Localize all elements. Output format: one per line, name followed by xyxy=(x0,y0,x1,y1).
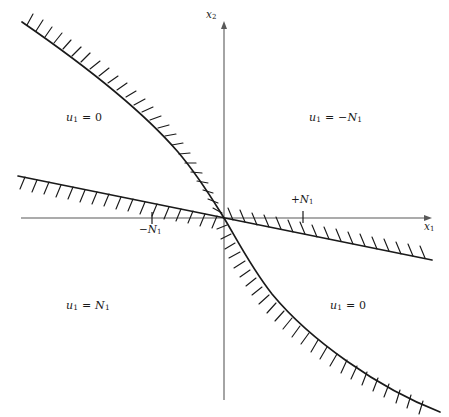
region-label-upper-right-value-sub: 1 xyxy=(357,115,362,124)
x1-axis-label: x1 xyxy=(424,220,434,233)
x1-axis-label-sub: 1 xyxy=(430,225,434,233)
tick-label-positive-N1-sub: 1 xyxy=(309,198,313,206)
region-label-upper-left-value: 0 xyxy=(95,111,102,124)
region-label-lower-left: u1 = N1 xyxy=(66,299,110,312)
region-label-lower-left-sub: 1 xyxy=(73,303,78,312)
x2-axis-arrowhead xyxy=(221,21,227,29)
x2-axis-label: x2 xyxy=(206,8,216,21)
tick-label-positive-N1-text: N xyxy=(300,193,309,205)
region-label-lower-left-value: N xyxy=(95,299,105,312)
x2-axis-label-sub: 2 xyxy=(212,13,216,21)
switching-curve-lower-right xyxy=(217,218,440,414)
tick-label-negative-N1-text: N xyxy=(148,223,157,235)
phase-plane-figure: x2 x1 −N1 +N1 u1 = 0 u1 = −N1 u1 = N1 u1… xyxy=(0,0,449,417)
region-label-upper-right-eq: = xyxy=(325,111,334,124)
region-label-lower-left-eq: = xyxy=(82,299,91,312)
region-label-upper-right-value: N xyxy=(348,111,358,124)
region-label-lower-right-sub: 1 xyxy=(337,303,342,312)
tick-label-negative-N1: −N1 xyxy=(139,223,161,236)
region-label-lower-right: u1 = 0 xyxy=(330,299,366,312)
switching-curve-upper-left-path xyxy=(22,22,224,218)
region-label-upper-right-sign: − xyxy=(338,111,347,124)
region-label-upper-left: u1 = 0 xyxy=(66,111,102,124)
region-label-lower-left-value-sub: 1 xyxy=(105,303,110,312)
switching-line-hatching-right xyxy=(228,208,425,258)
region-label-upper-left-eq: = xyxy=(82,111,91,124)
tick-label-positive-N1: +N1 xyxy=(291,193,313,206)
switching-curve-lower-right-path xyxy=(224,218,440,412)
tick-label-negative-N1-sign: − xyxy=(139,223,148,235)
switching-line-hatching-left xyxy=(20,177,217,228)
region-label-lower-right-value: 0 xyxy=(359,299,366,312)
tick-label-positive-N1-sign: + xyxy=(291,193,300,205)
tick-label-negative-N1-sub: 1 xyxy=(157,228,161,236)
diagram-canvas xyxy=(0,0,449,417)
region-label-lower-right-eq: = xyxy=(346,299,355,312)
switching-curve-lower-right-hatching xyxy=(217,225,423,414)
region-label-upper-right-sub: 1 xyxy=(316,115,321,124)
region-label-upper-right: u1 = −N1 xyxy=(309,111,362,124)
region-label-upper-left-sub: 1 xyxy=(73,115,78,124)
axes-group xyxy=(21,21,432,400)
switching-curve-upper-left xyxy=(22,14,224,218)
